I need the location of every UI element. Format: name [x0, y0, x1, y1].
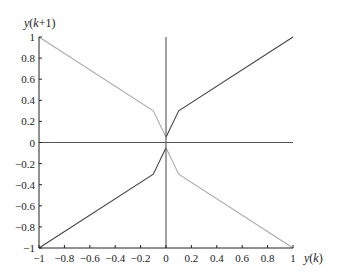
x-tick-label: 0.8: [261, 252, 275, 264]
y-tick-label: 0.4: [21, 94, 35, 106]
series-upper-right: [166, 37, 293, 137]
phase-plot-chart: −1−0.8−0.6−0.4−0.200.20.40.60.81−1−0.8−0…: [0, 0, 338, 278]
y-tick-label: 0.2: [21, 115, 35, 127]
y-tick-label: −0.8: [15, 221, 35, 233]
x-tick-label: 0.4: [210, 252, 224, 264]
x-tick-label: −0.4: [105, 252, 125, 264]
x-axis-label: y(k): [303, 251, 323, 265]
series-lower-right: [166, 148, 293, 248]
y-tick-label: 0.8: [21, 52, 35, 64]
x-tick-label: 1: [290, 252, 296, 264]
series-layer: [39, 37, 293, 248]
x-tick-label: −0.8: [54, 252, 74, 264]
y-tick-label: 0: [30, 137, 36, 149]
x-tick-label: −0.6: [80, 252, 100, 264]
x-tick-label: −0.2: [131, 252, 151, 264]
series-lower-left: [39, 148, 166, 248]
chart-svg: −1−0.8−0.6−0.4−0.200.20.40.60.81−1−0.8−0…: [0, 0, 338, 278]
y-axis-label: y(k+1): [23, 16, 55, 30]
x-tick-label: 0.2: [185, 252, 199, 264]
series-upper-left: [39, 37, 166, 137]
y-tick-label: −0.4: [15, 179, 35, 191]
y-tick-label: 0.6: [21, 73, 35, 85]
y-tick-label: −1: [23, 242, 35, 254]
x-tick-label: 0.6: [235, 252, 249, 264]
x-tick-label: 0: [163, 252, 169, 264]
axes-layer: −1−0.8−0.6−0.4−0.200.20.40.60.81−1−0.8−0…: [15, 31, 296, 264]
y-tick-label: 1: [30, 31, 36, 43]
y-tick-label: −0.2: [15, 158, 35, 170]
y-tick-label: −0.6: [15, 200, 35, 212]
